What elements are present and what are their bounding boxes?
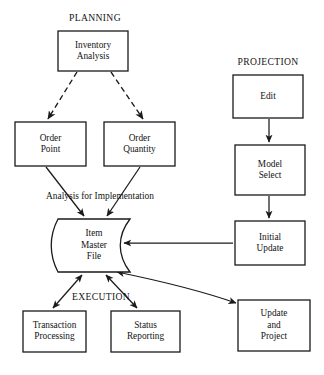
- node-item-master-file[interactable]: ItemMasterFile: [51, 219, 130, 272]
- node-label-model-select: Select: [259, 170, 282, 180]
- node-model-select[interactable]: ModelSelect: [235, 145, 305, 195]
- node-label-order-quantity: Quantity: [123, 144, 156, 154]
- node-label-update-and-project: Update: [261, 308, 288, 318]
- group-label-projection: PROJECTION: [237, 56, 298, 67]
- flowchart-canvas: InventoryAnalysisOrderPointOrderQuantity…: [0, 0, 324, 375]
- node-label-initial-update: Initial: [259, 232, 282, 242]
- node-label-model-select: Model: [258, 159, 283, 169]
- node-edit[interactable]: Edit: [233, 75, 303, 118]
- node-label-edit: Edit: [260, 91, 276, 101]
- node-label-item-master-file: Master: [81, 240, 108, 250]
- node-label-inventory-analysis: Inventory: [75, 40, 111, 50]
- edge-inventory-to-order-quantity: [111, 72, 143, 119]
- node-order-point[interactable]: OrderPoint: [15, 122, 86, 166]
- node-transaction-processing[interactable]: TransactionProcessing: [23, 311, 86, 352]
- group-label-planning: PLANNING: [69, 12, 121, 23]
- edge-item-master-to-update-project: [117, 272, 236, 303]
- node-label-inventory-analysis: Analysis: [77, 51, 110, 61]
- node-label-order-point: Point: [41, 144, 61, 154]
- node-label-initial-update: Update: [257, 243, 284, 253]
- node-inventory-analysis[interactable]: InventoryAnalysis: [58, 31, 128, 71]
- node-order-quantity[interactable]: OrderQuantity: [104, 122, 175, 166]
- node-label-item-master-file: File: [87, 251, 101, 261]
- flowchart-diagram: InventoryAnalysisOrderPointOrderQuantity…: [0, 0, 324, 375]
- node-update-and-project[interactable]: UpdateandProject: [238, 300, 310, 351]
- node-label-update-and-project: and: [267, 320, 281, 330]
- node-label-order-point: Order: [40, 133, 63, 143]
- node-label-order-quantity: Order: [129, 133, 152, 143]
- node-label-status-reporting: Status: [134, 320, 157, 330]
- node-label-transaction-processing: Transaction: [33, 320, 77, 330]
- edge-inventory-to-order-point: [48, 72, 77, 119]
- node-label-transaction-processing: Processing: [34, 331, 75, 341]
- node-label-status-reporting: Reporting: [127, 331, 165, 341]
- group-label-execution: EXECUTION: [72, 291, 130, 302]
- node-initial-update[interactable]: InitialUpdate: [235, 221, 305, 265]
- edge-label-analysis-for-implementation: Analysis for Implementation: [46, 191, 154, 201]
- node-status-reporting[interactable]: StatusReporting: [111, 311, 180, 352]
- node-label-update-and-project: Project: [261, 331, 288, 341]
- node-label-item-master-file: Item: [85, 228, 103, 238]
